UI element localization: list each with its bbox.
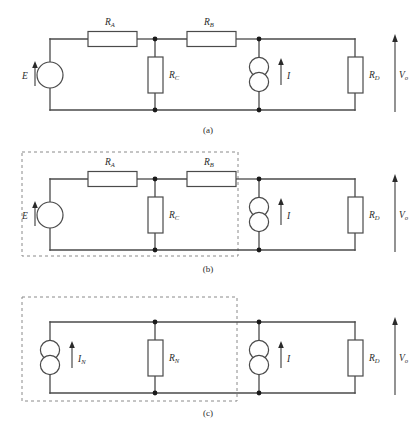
node-dot-c1 [153, 320, 158, 325]
node-dot-b2 [153, 248, 158, 253]
label-rd-a: RD [368, 70, 380, 81]
label-rb-b: RB [203, 157, 214, 168]
label-ra-b: RA [104, 157, 116, 168]
node-dot-b4 [257, 248, 262, 253]
resistor-ra-b [88, 172, 137, 187]
label-vo-a: Vo [399, 70, 409, 81]
resistor-rd-c [348, 340, 363, 376]
label-rb-a: RB [203, 17, 214, 28]
caption-c: (c) [203, 408, 213, 418]
node-dot-b1 [153, 177, 158, 182]
voltage-source-e-symbol [37, 62, 63, 88]
i-arrow-head-b [278, 198, 284, 205]
label-vo-c: Vo [399, 353, 409, 364]
vo-arrow-head-c [392, 317, 398, 325]
label-rd-b: RD [368, 210, 380, 221]
in-arrow-head-c [69, 341, 75, 348]
caption-b: (b) [203, 264, 214, 274]
resistor-rb-b [187, 172, 236, 187]
node-dot-a2 [153, 108, 158, 113]
current-source-i-circle-bottom-b [249, 212, 268, 231]
resistor-rn-c [148, 340, 163, 376]
label-rd-c: RD [368, 353, 380, 364]
e-arrow-head-b [32, 201, 38, 208]
label-i-a: I [286, 71, 291, 81]
label-rc-a: RC [168, 70, 180, 81]
label-rc-b: RC [168, 210, 180, 221]
node-dot-c4 [257, 391, 262, 396]
i-arrow-head-a [278, 58, 284, 65]
circuit-figure: E RA RB RC I RD Vo (a) [0, 0, 417, 436]
current-source-i-circle-bottom-a [249, 72, 268, 91]
i-arrow-head-c [278, 341, 284, 348]
vo-arrow-head-b [392, 174, 398, 182]
node-dot-a3 [257, 37, 262, 42]
panel-c: IN RN I RD Vo (c) [22, 297, 409, 418]
resistor-rd-b [348, 197, 363, 233]
vo-arrow-head-a [392, 34, 398, 42]
label-ra-a: RA [104, 17, 116, 28]
node-dot-c2 [153, 391, 158, 396]
current-source-in-circle-bottom [40, 355, 59, 374]
label-rn-c: RN [168, 353, 180, 364]
resistor-rc-a [148, 57, 163, 93]
e-arrow-head-a [32, 61, 38, 68]
node-dot-a1 [153, 37, 158, 42]
resistor-rd-a [348, 57, 363, 93]
label-in-c: IN [77, 354, 86, 365]
label-e-b: E [21, 211, 28, 221]
caption-a: (a) [203, 125, 213, 135]
panel-b: E RA RB RC I RD Vo (b) [21, 152, 409, 274]
resistor-rb-a [187, 32, 236, 47]
label-i-b: I [286, 211, 291, 221]
resistor-rc-b [148, 197, 163, 233]
circuit-diagram-svg: E RA RB RC I RD Vo (a) [0, 0, 417, 436]
voltage-source-e-symbol-b [37, 202, 63, 228]
panel-a: E RA RB RC I RD Vo (a) [21, 17, 409, 135]
node-dot-b3 [257, 177, 262, 182]
label-i-c: I [286, 354, 291, 364]
label-vo-b: Vo [399, 210, 409, 221]
node-dot-a4 [257, 108, 262, 113]
resistor-ra-a [88, 32, 137, 47]
current-source-i-circle-bottom-c [249, 355, 268, 374]
label-e-a: E [21, 71, 28, 81]
node-dot-c3 [257, 320, 262, 325]
